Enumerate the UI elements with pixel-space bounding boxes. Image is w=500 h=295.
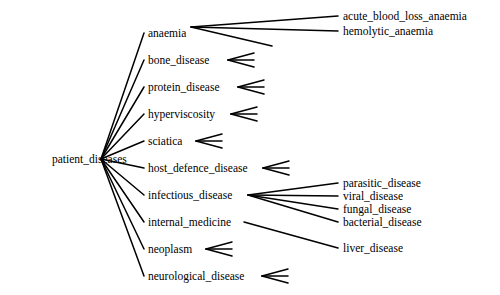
- edge-infectious_disease-to-viral_disease: [248, 195, 338, 196]
- tree-diagram: patient_diseasesanaemiabone_diseaseprote…: [0, 0, 500, 295]
- node-label-bacterial_disease: bacterial_disease: [343, 216, 422, 228]
- edge-neurological_disease-stub-3: [262, 276, 288, 283]
- node-label-internal_medicine: internal_medicine: [148, 216, 231, 228]
- node-label-protein_disease: protein_disease: [148, 81, 220, 93]
- edge-sciatica-stub-3: [196, 141, 222, 148]
- edge-protein_disease-stub-1: [238, 80, 264, 87]
- edge-host_defence_disease-stub-1: [263, 161, 289, 168]
- node-label-patient_diseases: patient_diseases: [52, 153, 127, 165]
- edge-sciatica-stub-1: [196, 134, 222, 141]
- node-label-neurological_disease: neurological_disease: [148, 270, 244, 282]
- tree-edges-layer: [0, 0, 500, 295]
- node-label-anaemia: anaemia: [148, 27, 186, 39]
- edge-anaemia-to-anaemia_child_3: [191, 27, 272, 46]
- edge-root-to-anaemia: [101, 33, 144, 159]
- edge-infectious_disease-to-parasitic_disease: [248, 183, 338, 195]
- edge-host_defence_disease-stub-3: [263, 168, 289, 175]
- edge-internal_medicine-to-liver_disease: [244, 222, 338, 248]
- node-label-parasitic_disease: parasitic_disease: [343, 177, 421, 189]
- edge-hyperviscosity-stub-3: [231, 114, 257, 121]
- edge-anaemia-to-acute_blood_loss_anaemia: [191, 16, 338, 27]
- edge-infectious_disease-to-fungal_disease: [248, 195, 338, 209]
- edge-neoplasm-stub-1: [206, 242, 232, 249]
- node-label-liver_disease: liver_disease: [343, 242, 403, 254]
- edge-neoplasm-stub-3: [206, 249, 232, 256]
- edge-root-to-neoplasm: [101, 159, 144, 249]
- edge-bone_disease-stub-1: [228, 53, 254, 60]
- node-label-bone_disease: bone_disease: [148, 54, 209, 66]
- edge-bone_disease-stub-3: [228, 60, 254, 67]
- edge-neurological_disease-stub-1: [262, 269, 288, 276]
- node-label-hemolytic_anaemia: hemolytic_anaemia: [343, 25, 433, 37]
- node-label-fungal_disease: fungal_disease: [343, 203, 411, 215]
- node-label-host_defence_disease: host_defence_disease: [148, 162, 248, 174]
- node-label-acute_blood_loss_anaemia: acute_blood_loss_anaemia: [343, 10, 467, 22]
- edge-anaemia-to-hemolytic_anaemia: [191, 27, 338, 31]
- node-label-viral_disease: viral_disease: [343, 190, 403, 202]
- node-label-sciatica: sciatica: [148, 135, 182, 147]
- edge-hyperviscosity-stub-1: [231, 107, 257, 114]
- node-label-neoplasm: neoplasm: [148, 243, 192, 255]
- edge-infectious_disease-to-bacterial_disease: [248, 195, 338, 222]
- node-label-hyperviscosity: hyperviscosity: [148, 108, 215, 120]
- node-label-infectious_disease: infectious_disease: [148, 189, 232, 201]
- edge-protein_disease-stub-3: [238, 87, 264, 94]
